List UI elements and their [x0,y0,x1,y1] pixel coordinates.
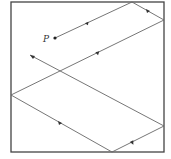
arrow-icon [146,9,150,13]
billiard-diagram: P [0,0,171,159]
point-p-label: P [42,34,50,44]
arrow-head-icon [30,55,35,59]
point-p-dot [53,36,56,39]
arrow-icon [58,121,62,125]
